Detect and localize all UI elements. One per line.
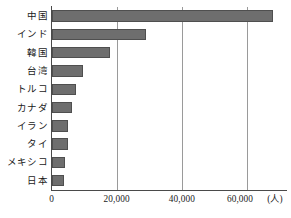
category-label: イラン <box>0 117 48 135</box>
bar-row <box>52 80 283 98</box>
category-axis-labels: 中国 インド 韓国 台湾 トルコ カナダ イラン タイ メキシコ 日本 <box>0 7 48 190</box>
bar-chart: 中国 インド 韓国 台湾 トルコ カナダ イラン タイ メキシコ 日本 <box>0 0 291 218</box>
category-label: メキシコ <box>0 153 48 171</box>
bar <box>52 102 73 113</box>
bar-row <box>52 172 283 190</box>
x-axis-unit-label: (人) <box>267 193 283 205</box>
bar <box>52 84 76 95</box>
x-tick-label-60000: 60,000 <box>227 193 253 205</box>
bar <box>52 138 69 149</box>
bar-row <box>52 99 283 117</box>
category-label: 中国 <box>0 7 48 25</box>
category-label: 日本 <box>0 172 48 190</box>
bar-row <box>52 25 283 43</box>
category-label: 韓国 <box>0 44 48 62</box>
bar-row <box>52 62 283 80</box>
x-axis-line <box>51 190 287 191</box>
x-tick-label-20000: 20,000 <box>104 193 130 205</box>
bar <box>52 175 65 186</box>
bar <box>52 120 69 131</box>
bar-row <box>52 7 283 25</box>
x-tick-label-40000: 40,000 <box>169 193 195 205</box>
category-label: トルコ <box>0 80 48 98</box>
x-tick-label-0: 0 <box>49 193 54 205</box>
y-axis-line <box>51 6 52 191</box>
bar <box>52 29 147 40</box>
category-label: タイ <box>0 135 48 153</box>
plot-area <box>52 7 283 190</box>
bar-row <box>52 135 283 153</box>
bar-row <box>52 44 283 62</box>
bar <box>52 65 84 76</box>
category-label: 台湾 <box>0 62 48 80</box>
bar <box>52 157 65 168</box>
category-label: インド <box>0 25 48 43</box>
bar <box>52 10 274 21</box>
bar-row <box>52 117 283 135</box>
bar <box>52 47 111 58</box>
bar-row <box>52 153 283 171</box>
category-label: カナダ <box>0 99 48 117</box>
